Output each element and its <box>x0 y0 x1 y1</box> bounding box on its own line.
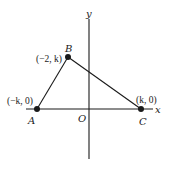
point-a-dot <box>34 106 40 112</box>
edge-ab <box>37 57 68 109</box>
point-c-dot <box>138 106 144 112</box>
y-axis-label: y <box>85 8 92 19</box>
coordinate-diagram: y x O A B C (−k, 0) (−2, k) (k, 0) <box>0 0 170 169</box>
point-b-coord: (−2, k) <box>36 54 62 65</box>
point-c-coord: (k, 0) <box>136 95 157 106</box>
x-axis-label: x <box>155 104 161 115</box>
point-c-label: C <box>139 116 147 127</box>
point-b-label: B <box>64 43 72 54</box>
origin-label: O <box>78 113 86 124</box>
point-a-label: A <box>27 115 35 126</box>
point-b-dot <box>65 54 71 60</box>
edge-bc <box>68 57 141 109</box>
point-a-coord: (−k, 0) <box>7 96 33 107</box>
